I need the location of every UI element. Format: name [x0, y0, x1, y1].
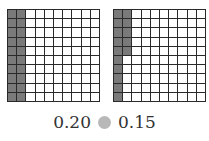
empty-cell	[178, 74, 186, 82]
empty-cell	[169, 65, 177, 73]
empty-cell	[91, 56, 99, 64]
empty-cell	[72, 74, 80, 82]
empty-cell	[151, 28, 159, 36]
empty-cell	[142, 65, 150, 73]
empty-cell	[160, 38, 168, 46]
empty-cell	[72, 19, 80, 27]
shaded-cell	[8, 19, 16, 27]
empty-cell	[91, 38, 99, 46]
shaded-cell	[17, 10, 25, 18]
empty-cell	[151, 74, 159, 82]
empty-cell	[142, 28, 150, 36]
empty-cell	[45, 56, 53, 64]
empty-cell	[142, 19, 150, 27]
empty-cell	[132, 47, 140, 55]
empty-cell	[36, 56, 44, 64]
empty-cell	[72, 56, 80, 64]
empty-cell	[197, 93, 205, 101]
empty-cell	[169, 10, 177, 18]
empty-cell	[82, 74, 90, 82]
empty-cell	[132, 93, 140, 101]
comparison-circle-icon[interactable]	[98, 116, 111, 129]
shaded-cell	[8, 56, 16, 64]
empty-cell	[26, 65, 34, 73]
empty-cell	[197, 84, 205, 92]
shaded-cell	[114, 38, 122, 46]
empty-cell	[142, 56, 150, 64]
empty-cell	[188, 28, 196, 36]
empty-cell	[45, 47, 53, 55]
shaded-cell	[8, 28, 16, 36]
empty-cell	[54, 10, 62, 18]
empty-cell	[132, 65, 140, 73]
empty-cell	[197, 19, 205, 27]
empty-cell	[82, 28, 90, 36]
empty-cell	[123, 84, 131, 92]
empty-cell	[63, 38, 71, 46]
empty-cell	[54, 93, 62, 101]
empty-cell	[63, 74, 71, 82]
empty-cell	[151, 56, 159, 64]
empty-cell	[36, 38, 44, 46]
empty-cell	[123, 74, 131, 82]
empty-cell	[26, 47, 34, 55]
empty-cell	[178, 10, 186, 18]
empty-cell	[188, 47, 196, 55]
empty-cell	[82, 84, 90, 92]
shaded-cell	[114, 65, 122, 73]
empty-cell	[188, 74, 196, 82]
empty-cell	[82, 47, 90, 55]
shaded-cell	[8, 84, 16, 92]
shaded-cell	[17, 47, 25, 55]
empty-cell	[72, 38, 80, 46]
empty-cell	[36, 10, 44, 18]
shaded-cell	[114, 56, 122, 64]
empty-cell	[151, 38, 159, 46]
empty-cell	[132, 10, 140, 18]
shaded-cell	[123, 28, 131, 36]
empty-cell	[178, 47, 186, 55]
empty-cell	[142, 74, 150, 82]
shaded-cell	[123, 38, 131, 46]
left-value: 0.20	[53, 112, 91, 132]
shaded-cell	[8, 65, 16, 73]
empty-cell	[54, 38, 62, 46]
empty-cell	[45, 74, 53, 82]
empty-cell	[82, 38, 90, 46]
empty-cell	[26, 19, 34, 27]
shaded-cell	[17, 93, 25, 101]
empty-cell	[132, 19, 140, 27]
empty-cell	[82, 10, 90, 18]
empty-cell	[123, 93, 131, 101]
empty-cell	[160, 10, 168, 18]
shaded-cell	[17, 84, 25, 92]
empty-cell	[160, 56, 168, 64]
empty-cell	[91, 19, 99, 27]
empty-cell	[142, 38, 150, 46]
empty-cell	[178, 84, 186, 92]
empty-cell	[26, 10, 34, 18]
empty-cell	[45, 65, 53, 73]
empty-cell	[26, 38, 34, 46]
empty-cell	[169, 56, 177, 64]
empty-cell	[169, 19, 177, 27]
empty-cell	[188, 38, 196, 46]
empty-cell	[178, 38, 186, 46]
empty-cell	[82, 93, 90, 101]
empty-cell	[26, 56, 34, 64]
empty-cell	[123, 56, 131, 64]
empty-cell	[197, 47, 205, 55]
shaded-cell	[17, 28, 25, 36]
empty-cell	[82, 65, 90, 73]
empty-cell	[178, 28, 186, 36]
empty-cell	[123, 65, 131, 73]
empty-cell	[63, 28, 71, 36]
empty-cell	[54, 84, 62, 92]
empty-cell	[178, 65, 186, 73]
empty-cell	[63, 47, 71, 55]
empty-cell	[63, 56, 71, 64]
empty-cell	[197, 10, 205, 18]
empty-cell	[197, 74, 205, 82]
shaded-cell	[17, 56, 25, 64]
empty-cell	[132, 84, 140, 92]
